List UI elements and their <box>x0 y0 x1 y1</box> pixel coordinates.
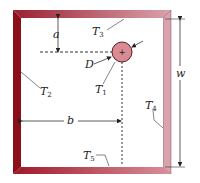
label-T2: T2 <box>40 86 52 99</box>
bottom-wall <box>13 167 171 174</box>
label-T1: T1 <box>95 84 107 97</box>
label-T4: T4 <box>145 100 157 113</box>
label-w: w <box>176 68 185 79</box>
top-wall <box>13 10 171 18</box>
cylinder-center-mark: + <box>119 48 126 57</box>
label-a: a <box>53 29 60 40</box>
label-b: b <box>67 115 74 126</box>
enclosure-diagram: + a b w D T1 T2 T3 T4 T5 <box>0 0 200 183</box>
label-D: D <box>85 59 94 70</box>
right-wall <box>163 10 171 174</box>
label-T5: T5 <box>83 150 95 163</box>
label-T3: T3 <box>92 26 104 39</box>
left-wall <box>13 10 21 174</box>
